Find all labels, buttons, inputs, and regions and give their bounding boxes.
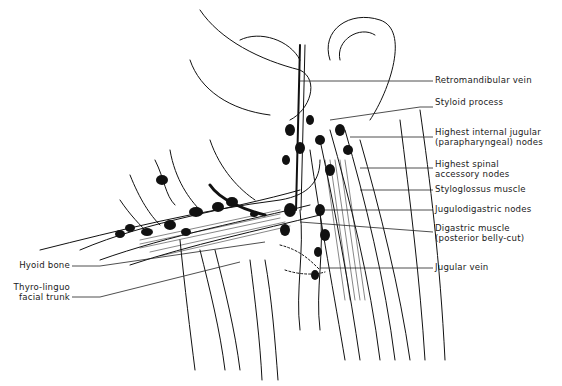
label-text: Jugular vein: [435, 263, 488, 273]
label-highest-spinal-accessory-nodes: Highest spinal accessory nodes: [435, 160, 510, 179]
label-text: Jugulodigastric nodes: [435, 205, 531, 215]
label-thyro-linguo-facial-trunk: Thyro-linguo facial trunk: [0, 283, 70, 302]
label-jugular-vein: Jugular vein: [435, 263, 488, 273]
label-text: accessory nodes: [435, 170, 510, 180]
label-styloglossus-muscle: Styloglossus muscle: [435, 185, 526, 195]
label-styloid-process: Styloid process: [435, 98, 503, 108]
label-text: (posterior belly-cut): [435, 234, 524, 244]
label-hyoid-bone: Hyoid bone: [0, 261, 70, 271]
label-text: Retromandibular vein: [435, 76, 532, 86]
label-text: (parapharyngeal) nodes: [435, 138, 543, 148]
label-text: Styloglossus muscle: [435, 185, 526, 195]
label-highest-internal-jugular-nodes: Highest internal jugular (parapharyngeal…: [435, 128, 543, 147]
label-retromandibular-vein: Retromandibular vein: [435, 76, 532, 86]
label-text: Styloid process: [435, 98, 503, 108]
label-digastric-muscle: Digastric muscle (posterior belly-cut): [435, 224, 524, 243]
label-text: Hyoid bone: [0, 261, 70, 271]
label-text: facial trunk: [0, 293, 70, 303]
neck-anatomy-figure: Retromandibular vein Styloid process Hig…: [0, 0, 562, 386]
label-jugulodigastric-nodes: Jugulodigastric nodes: [435, 205, 531, 215]
